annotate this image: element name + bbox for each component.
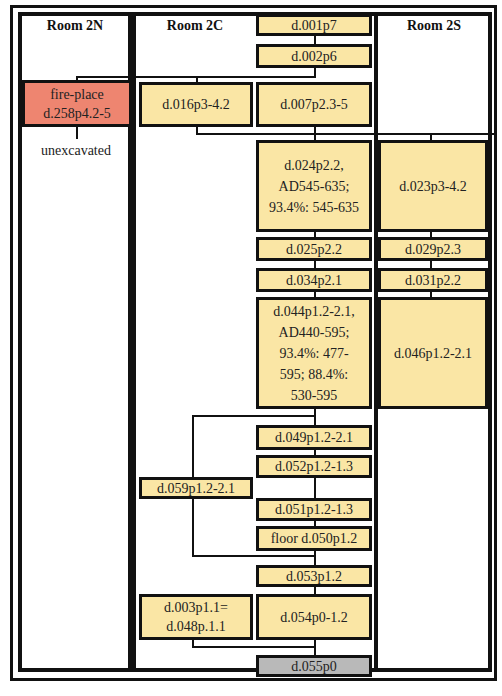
context-d050[interactable]: floor d.050p1.2 bbox=[256, 526, 372, 551]
room-2c-title: Room 2C bbox=[140, 18, 250, 34]
context-d025[interactable]: d.025p2.2 bbox=[256, 237, 372, 261]
room-2n-title: Room 2N bbox=[22, 18, 128, 34]
context-d052[interactable]: d.052p1.2-1.3 bbox=[256, 455, 372, 478]
context-d059[interactable]: d.059p1.2-2.1 bbox=[139, 477, 253, 499]
context-d051[interactable]: d.051p1.2-1.3 bbox=[256, 498, 372, 521]
context-d016[interactable]: d.016p3-4.2 bbox=[139, 82, 253, 127]
context-d003[interactable]: d.003p1.1= d.048p.1.1 bbox=[139, 594, 253, 640]
connector bbox=[192, 497, 194, 555]
connector bbox=[314, 476, 316, 500]
unexcavated-label: unexcavated bbox=[22, 143, 130, 159]
context-d029[interactable]: d.029p2.3 bbox=[378, 237, 488, 261]
connector bbox=[192, 646, 316, 648]
context-d049[interactable]: d.049p1.2-2.1 bbox=[256, 425, 372, 450]
connector bbox=[192, 415, 316, 417]
context-d007[interactable]: d.007p2.3-5 bbox=[256, 82, 372, 127]
context-d034[interactable]: d.034p2.1 bbox=[256, 268, 372, 292]
context-d046[interactable]: d.046p1.2-2.1 bbox=[378, 297, 488, 409]
connector bbox=[196, 133, 496, 135]
context-d031[interactable]: d.031p2.2 bbox=[378, 268, 488, 292]
context-d002[interactable]: d.002p6 bbox=[256, 44, 372, 68]
context-d053[interactable]: d.053p1.2 bbox=[256, 565, 372, 587]
context-d258-fireplace[interactable]: fire-place d.258p4.2-5 bbox=[22, 80, 132, 127]
context-d054[interactable]: d.054p0-1.2 bbox=[256, 594, 372, 640]
context-d055[interactable]: d.055p0 bbox=[256, 655, 372, 677]
connector bbox=[314, 638, 316, 656]
connector bbox=[314, 125, 316, 141]
connector bbox=[76, 125, 78, 139]
context-d001[interactable]: d.001p7 bbox=[256, 14, 372, 36]
connector bbox=[192, 415, 194, 477]
connector bbox=[314, 549, 316, 565]
context-d024[interactable]: d.024p2.2, AD545-635; 93.4%: 545-635 bbox=[256, 140, 372, 232]
room-2s-title: Room 2S bbox=[380, 18, 488, 34]
context-d044[interactable]: d.044p1.2-2.1, AD440-595; 93.4%: 477- 59… bbox=[256, 297, 372, 409]
context-d023[interactable]: d.023p3-4.2 bbox=[378, 140, 488, 232]
connector bbox=[192, 555, 316, 557]
